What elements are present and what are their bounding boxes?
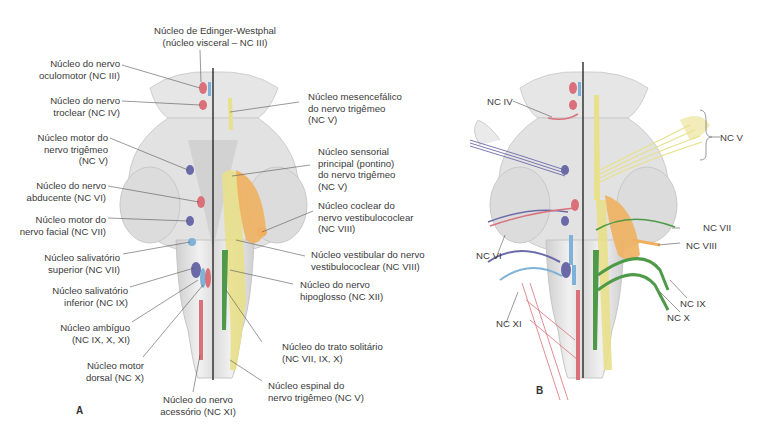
label-accessory-nucleus: Núcleo do nervo acessório (NC XI) xyxy=(148,394,248,417)
label-nc-ix: NC IX xyxy=(680,298,706,310)
panel-letter-a: A xyxy=(76,405,83,416)
label-principal-sensory-nucleus: Núcleo sensorial principal (pontino) do … xyxy=(318,146,395,192)
label-superior-salivatory-nucleus: Núcleo salivatório superior (NC VII) xyxy=(0,252,120,275)
label-nc-iv: NC IV xyxy=(487,96,513,108)
label-nucleus-ambiguus: Núcleo ambíguo (NC IX, X, XI) xyxy=(0,322,130,345)
label-cochlear-nucleus: Núcleo coclear do nervo vestibulococlear… xyxy=(318,200,413,235)
panel-letter-b: B xyxy=(536,385,543,396)
label-hypoglossal-nucleus: Núcleo do nervo hipoglosso (NC XII) xyxy=(300,279,383,302)
label-edinger-westphal: Núcleo de Edinger-Westphal (núcleo visce… xyxy=(140,25,290,48)
label-dorsal-motor-nucleus: Núcleo motor dorsal (NC X) xyxy=(0,360,144,383)
label-nc-v: NC V xyxy=(720,132,743,144)
label-nc-x: NC X xyxy=(667,312,690,324)
label-trochlear-nucleus: Núcleo do nervo troclear (NC IV) xyxy=(10,95,120,118)
label-nc-vii: NC VII xyxy=(703,222,731,234)
label-facial-motor-nucleus: Núcleo motor do nervo facial (NC VII) xyxy=(0,214,106,237)
label-solitary-tract-nucleus: Núcleo do trato solitário (NC VII, IX, X… xyxy=(282,341,383,364)
panel-b-brainstem xyxy=(470,62,710,400)
label-trigeminal-motor-nucleus: Núcleo motor do nervo trigêmeo (NC V) xyxy=(0,132,108,167)
label-mesencephalic-nucleus: Núcleo mesencefálico do nervo trigêmeo (… xyxy=(308,91,402,126)
label-inferior-salivatory-nucleus: Núcleo salivatório inferior (NC IX) xyxy=(0,285,128,308)
label-nc-vi: NC VI xyxy=(476,250,502,262)
label-nc-xi: NC XI xyxy=(496,318,522,330)
label-vestibular-nucleus: Núcleo vestibular do nervo vestibulococl… xyxy=(311,249,425,272)
label-oculomotor-nucleus: Núcleo do nervo oculomotor (NC III) xyxy=(10,58,120,81)
label-spinal-trigeminal-nucleus: Núcleo espinal do nervo trigêmeo (NC V) xyxy=(268,380,364,403)
label-nc-viii: NC VIII xyxy=(686,240,717,252)
label-abducens-nucleus: Núcleo do nervo abducente (NC VI) xyxy=(0,180,106,203)
panel-a-brainstem xyxy=(120,68,307,380)
